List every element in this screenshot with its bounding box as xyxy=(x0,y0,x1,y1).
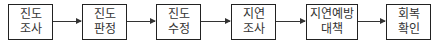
arrow-connector xyxy=(276,21,305,22)
step-label-line2: 대책 xyxy=(321,22,343,37)
arrow-connector xyxy=(201,21,230,22)
step-recovery-check: 회복 확인 xyxy=(386,4,431,40)
step-label-line1: 회복 xyxy=(398,7,420,22)
step-label-line2: 판정 xyxy=(94,22,116,37)
step-progress-judgment: 진도 판정 xyxy=(82,4,127,40)
arrow-connector xyxy=(53,21,81,22)
step-label-line2: 조사 xyxy=(20,22,42,37)
step-label-line1: 진도 xyxy=(94,7,116,22)
arrow-connector xyxy=(127,21,155,22)
step-delay-prevention: 지연예방 대책 xyxy=(306,4,358,40)
step-progress-survey: 진도 조사 xyxy=(8,4,53,40)
step-label-line1: 지연 xyxy=(243,7,265,22)
step-label-line1: 진도 xyxy=(20,7,42,22)
step-label-line2: 조사 xyxy=(243,22,265,37)
step-label-line1: 진도 xyxy=(168,7,190,22)
step-label-line1: 지연예방 xyxy=(310,7,354,22)
step-progress-revision: 진도 수정 xyxy=(156,4,201,40)
arrow-connector xyxy=(358,21,385,22)
step-delay-survey: 지연 조사 xyxy=(231,4,276,40)
step-label-line2: 수정 xyxy=(168,22,190,37)
step-label-line2: 확인 xyxy=(398,22,420,37)
